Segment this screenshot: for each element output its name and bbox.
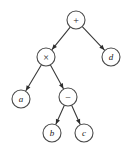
node-label: + bbox=[73, 15, 79, 26]
tree-node-b[interactable]: b bbox=[43, 124, 61, 142]
tree-edge bbox=[51, 65, 64, 88]
tree-edge bbox=[26, 65, 41, 91]
tree-node-root[interactable]: + bbox=[67, 11, 85, 29]
tree-edge bbox=[52, 27, 70, 49]
node-label: × bbox=[43, 52, 49, 63]
edges-layer bbox=[26, 27, 105, 124]
nodes-layer: +×da−bc bbox=[12, 11, 120, 142]
node-label: b bbox=[50, 128, 55, 138]
node-label: a bbox=[19, 94, 24, 104]
tree-node-a[interactable]: a bbox=[12, 90, 30, 108]
tree-node-times[interactable]: × bbox=[37, 48, 55, 66]
node-label: c bbox=[82, 128, 86, 138]
tree-canvas: +×da−bc bbox=[0, 0, 128, 152]
tree-edge bbox=[83, 27, 105, 50]
tree-node-c[interactable]: c bbox=[75, 124, 93, 142]
tree-node-minus[interactable]: − bbox=[59, 88, 77, 106]
node-label: − bbox=[65, 92, 71, 103]
tree-edge bbox=[56, 106, 64, 125]
expression-tree-diagram: +×da−bc bbox=[0, 0, 128, 152]
tree-edge bbox=[72, 106, 80, 125]
tree-node-d[interactable]: d bbox=[102, 48, 120, 66]
node-label: d bbox=[109, 52, 114, 62]
